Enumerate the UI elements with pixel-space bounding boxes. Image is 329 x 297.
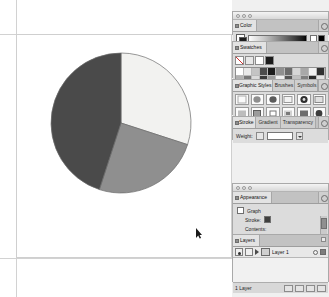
appearance-panel[interactable]: Appearance Graph Stroke: Contents: [232,183,329,236]
layer-row[interactable]: Layer 1 [233,247,328,258]
swatch-cell[interactable] [268,68,276,76]
swatch-cell[interactable] [285,68,293,76]
white-swatch-icon[interactable] [255,56,264,65]
create-sublayer-button[interactable] [295,285,304,292]
style-thumb[interactable] [266,94,280,105]
document-canvas[interactable] [0,0,232,297]
close-icon[interactable] [321,237,326,242]
weight-dropdown-icon[interactable] [296,132,303,140]
swatches-tool-row[interactable] [235,56,326,65]
style-thumb[interactable] [313,94,327,105]
scrollbar-thumb[interactable] [321,218,327,229]
close-dot-icon[interactable] [236,14,240,18]
swatch-cell[interactable] [236,68,244,76]
tab-brushes[interactable]: Brushes [273,80,295,91]
illustrator-workspace: Color Swatches [0,0,329,297]
layer-visibility-icon[interactable] [235,248,243,256]
layers-tab-icon [235,239,239,243]
none-swatch-icon[interactable] [235,56,244,65]
tabbar-filler [260,235,328,246]
swatch-cell[interactable] [252,68,260,76]
appearance-panel-menu-icon[interactable] [318,192,328,203]
registration-icon[interactable] [245,56,254,65]
zoom-dot-icon[interactable] [248,14,252,18]
appearance-panel-titlebar[interactable] [233,184,328,192]
create-layer-button[interactable] [306,285,315,292]
tab-layers-label: Layers [240,237,255,243]
tab-stroke-label: Stroke [239,119,253,125]
swatch-cell[interactable] [276,68,284,76]
swatches-panel-menu-icon[interactable] [318,42,328,53]
appearance-row-contents[interactable]: Contents: [236,224,325,233]
guide-bottom [0,258,232,259]
appearance-target-label: Graph [247,208,261,214]
color-panel-menu-icon[interactable] [318,20,328,31]
layer-lock-icon[interactable] [245,248,253,256]
appearance-panel-tabs[interactable]: Appearance [233,192,328,204]
layer-expand-icon[interactable] [255,249,259,255]
color-panel[interactable]: Color [232,11,329,35]
tab-swatches-label: Swatches [240,44,262,50]
swatches-tab-icon [235,46,239,50]
tab-gradient[interactable]: Gradient [256,117,280,128]
style-thumb[interactable] [297,94,311,105]
black-swatch-icon[interactable] [265,56,274,65]
pie-graph-object[interactable] [45,52,197,194]
style-thumb[interactable] [282,94,296,105]
appearance-tab-icon [235,196,239,200]
minimize-dot-icon[interactable] [242,14,246,18]
swatch-cell[interactable] [260,68,268,76]
color-panel-tabs[interactable]: Color [233,20,328,32]
tab-color[interactable]: Color [233,20,257,31]
tab-appearance[interactable]: Appearance [233,192,272,203]
swatch-cell[interactable] [301,68,309,76]
weight-input[interactable] [267,132,293,140]
layer-name[interactable]: Layer 1 [272,249,311,255]
styles-panel-tabs[interactable]: Graphic Styles Brushes Symbols [233,80,328,92]
weight-stepper[interactable] [256,132,264,140]
tab-transparency[interactable]: Transparency [281,117,316,128]
tab-swatches[interactable]: Swatches [233,42,267,53]
layers-list-empty-area[interactable] [233,258,328,282]
stroke-panel-menu-icon[interactable] [318,117,328,128]
window-dots [236,14,252,18]
zoom-dot-icon[interactable] [248,186,252,190]
appearance-row-label: Stroke: [245,217,261,223]
tab-color-label: Color [240,22,252,28]
close-dot-icon[interactable] [236,186,240,190]
layers-panel[interactable]: Layers Layer 1 1 Layer [232,234,329,282]
style-thumb[interactable] [251,94,265,105]
pie-slices [51,53,191,193]
swatch-cell[interactable] [317,68,325,76]
layers-count-status: 1 Layer [235,285,282,291]
color-panel-titlebar[interactable] [233,12,328,20]
swatch-cell[interactable] [309,68,317,76]
styles-panel-menu-icon[interactable] [318,80,328,91]
appearance-row-stroke[interactable]: Stroke: [236,215,325,224]
graphic-styles-panel[interactable]: Graphic Styles Brushes Symbols [232,79,329,115]
layers-panel-tabs[interactable]: Layers [233,235,328,247]
tab-layers[interactable]: Layers [233,235,260,246]
stroke-panel-tabs[interactable]: Stroke Gradient Transparency [233,117,328,129]
swatches-panel[interactable]: Swatches [232,41,329,78]
selection-arrow-cursor [195,228,203,239]
stroke-weight-row[interactable]: Weight: [236,131,325,141]
tab-symbols[interactable]: Symbols [295,80,318,91]
swatch-cell[interactable] [244,68,252,76]
stroke-color-swatch[interactable] [264,216,271,223]
appearance-target-row[interactable]: Graph [236,206,325,215]
tab-graphic-styles[interactable]: Graphic Styles [233,80,273,91]
swatch-cell[interactable] [293,68,301,76]
panel-dock: Color Swatches [232,0,329,297]
layers-footer[interactable]: 1 Layer [233,282,328,293]
swatches-panel-tabs[interactable]: Swatches [233,42,328,54]
layer-selection-indicator[interactable] [320,249,326,255]
stroke-panel[interactable]: Stroke Gradient Transparency Weight: [232,116,329,140]
make-clipping-mask-button[interactable] [284,285,293,292]
color-tab-icon [235,24,239,28]
minimize-dot-icon[interactable] [242,186,246,190]
delete-layer-button[interactable] [317,285,326,292]
tab-stroke[interactable]: Stroke [233,117,256,128]
style-thumb[interactable] [235,94,249,105]
layer-target-icon[interactable] [313,250,318,255]
